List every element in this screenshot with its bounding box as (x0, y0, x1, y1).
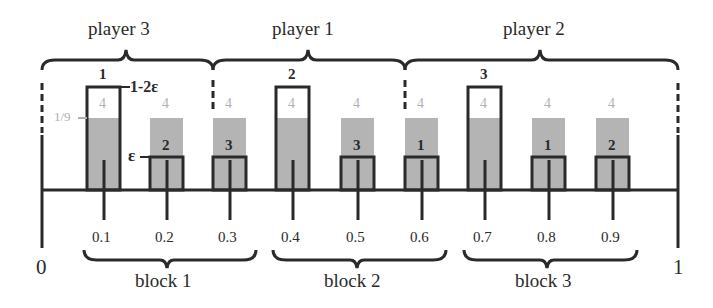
tick-label: 0.6 (410, 229, 429, 246)
bar-top-label: 2 (608, 137, 616, 154)
tick-label: 0.5 (346, 229, 365, 246)
bar-top-label: 1 (417, 137, 425, 154)
player-label: player 1 (272, 18, 334, 40)
short-height-annotation: ε (128, 146, 135, 166)
block-label: block 3 (515, 270, 571, 292)
shade-label: 4 (288, 96, 295, 112)
tick-label: 0.2 (155, 229, 174, 246)
shade-label: 4 (608, 96, 615, 112)
shade-label: 4 (225, 96, 232, 112)
diagram-canvas (0, 0, 713, 308)
bar-top-label: 2 (162, 137, 170, 154)
player-label: player 3 (88, 18, 150, 40)
tall-height-annotation: 1-2ε (130, 78, 158, 96)
bar-top-label: 1 (99, 66, 107, 83)
allocation-diagram: player 3 player 1 player 2 1 2 3 2 3 1 3… (0, 0, 713, 308)
axis-end-label: 1 (673, 255, 684, 280)
tick-label: 0.7 (473, 229, 492, 246)
tick-label: 0.4 (281, 229, 300, 246)
shade-label: 4 (417, 96, 424, 112)
shade-label: 4 (99, 96, 106, 112)
tick-label: 0.1 (92, 229, 111, 246)
axis-start-label: 0 (36, 255, 47, 280)
tick-label: 0.9 (601, 229, 620, 246)
shade-height-annotation: 1/9 (54, 109, 71, 125)
bar-top-label: 3 (480, 66, 488, 83)
bar-top-label: 3 (353, 137, 361, 154)
shade-label: 4 (480, 96, 487, 112)
block-label: block 1 (135, 270, 191, 292)
player-label: player 2 (503, 18, 565, 40)
bar-top-label: 2 (288, 66, 296, 83)
block-braces (84, 250, 637, 268)
shade-label: 4 (544, 96, 551, 112)
tick-label: 0.3 (218, 229, 237, 246)
tick-label: 0.8 (537, 229, 556, 246)
bar-top-label: 3 (225, 137, 233, 154)
bar-top-label: 1 (544, 137, 552, 154)
shade-label: 4 (353, 96, 360, 112)
block-label: block 2 (324, 270, 380, 292)
player-braces (42, 50, 678, 70)
shade-label: 4 (162, 96, 169, 112)
